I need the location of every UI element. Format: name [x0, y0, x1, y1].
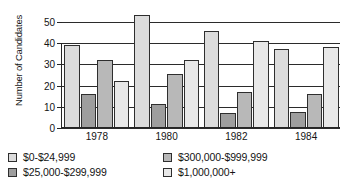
y-tick-label-30: 30 — [44, 59, 55, 70]
legend-item: $0-$24,999 — [8, 151, 75, 163]
x-tick-label-1984: 1984 — [295, 131, 317, 142]
legend-swatch-icon — [163, 153, 172, 162]
legend-item: $300,000-$999,999 — [163, 151, 267, 163]
y-tick-label-40: 40 — [44, 38, 55, 49]
plot-area: 01020304050 — [61, 20, 340, 128]
x-axis-labels: 1978198019821984 — [61, 131, 340, 147]
bar — [204, 31, 220, 128]
x-tick-label-1980: 1980 — [156, 131, 178, 142]
bar — [184, 60, 200, 128]
bar — [97, 60, 113, 128]
legend-swatch-icon — [163, 168, 172, 177]
gridline-0 — [61, 128, 340, 129]
bar-chart: Number of Candidates 01020304050 1978198… — [0, 0, 348, 181]
bar — [81, 94, 97, 128]
chart-legend: $0-$24,999$300,000-$999,999$25,000-$299,… — [8, 151, 348, 181]
x-tick-label-1978: 1978 — [86, 131, 108, 142]
bar — [253, 41, 269, 128]
legend-item: $25,000-$299,999 — [8, 166, 107, 178]
y-tick-label-0: 0 — [49, 123, 55, 134]
bar — [307, 94, 323, 128]
legend-item: $1,000,000+ — [163, 166, 236, 178]
y-tick-mark-0 — [57, 128, 62, 129]
bar — [64, 45, 80, 128]
bar — [274, 49, 290, 128]
legend-label: $1,000,000+ — [178, 166, 236, 178]
bar — [114, 81, 130, 128]
legend-swatch-icon — [8, 153, 17, 162]
bar — [237, 92, 253, 128]
legend-label: $0-$24,999 — [23, 151, 75, 163]
x-axis-line — [61, 127, 340, 128]
bar — [151, 104, 167, 128]
legend-label: $300,000-$999,999 — [178, 151, 267, 163]
y-axis-title: Number of Candidates — [13, 1, 24, 121]
y-tick-label-10: 10 — [44, 101, 55, 112]
bar — [134, 15, 150, 128]
bar — [323, 47, 339, 128]
bar — [290, 112, 306, 128]
legend-label: $25,000-$299,999 — [23, 166, 107, 178]
y-tick-label-50: 50 — [44, 16, 55, 27]
bar — [220, 113, 236, 128]
legend-swatch-icon — [8, 168, 17, 177]
x-tick-label-1982: 1982 — [225, 131, 247, 142]
bars-layer — [61, 20, 340, 128]
y-tick-label-20: 20 — [44, 80, 55, 91]
bar — [167, 74, 183, 128]
